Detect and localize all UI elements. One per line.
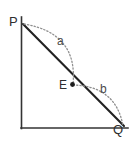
arc-b-label: b [100,83,107,95]
caption-text [0,139,136,147]
equilibrium-point-marker [70,82,75,87]
x-axis-label: Q [113,123,123,136]
arc-b-curve [73,85,123,126]
price-quantity-diagram: P Q a b E [0,0,136,147]
arc-a-label: a [57,35,64,47]
equilibrium-point-label: E [59,79,67,91]
y-axis-label: P [9,15,18,28]
